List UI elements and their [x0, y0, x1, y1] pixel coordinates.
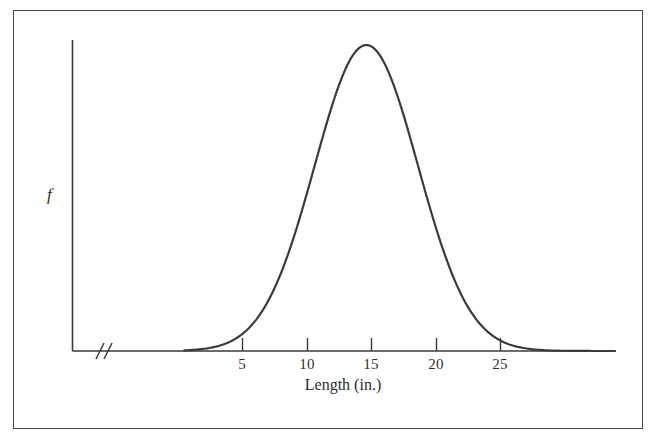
y-axis-label: f — [47, 185, 52, 205]
x-tick-label-20: 20 — [428, 356, 443, 373]
x-axis-label: Length (in.) — [305, 376, 381, 394]
x-tick-label-25: 25 — [492, 356, 507, 373]
x-tick-label-10: 10 — [299, 356, 314, 373]
figure-root: f 5 10 15 20 25 Length (in.) — [0, 0, 653, 443]
x-tick-label-15: 15 — [363, 356, 378, 373]
x-tick-label-5: 5 — [238, 356, 246, 373]
x-axis-ticks — [243, 338, 501, 351]
normal-distribution-curve — [184, 45, 614, 351]
